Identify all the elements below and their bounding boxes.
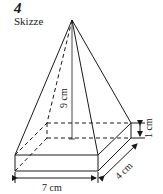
slab-front-face — [15, 155, 98, 171]
thickness-label: 1 cm — [143, 118, 154, 138]
pyramid-on-slab-diagram: 9 cm 1 cm 4 cm 7 cm — [0, 0, 163, 194]
depth-label: 4 cm — [113, 160, 135, 182]
pyramid-edges — [15, 20, 131, 155]
height-label: 9 cm — [58, 88, 69, 108]
width-label: 7 cm — [42, 182, 62, 193]
hidden-edges — [15, 20, 131, 171]
